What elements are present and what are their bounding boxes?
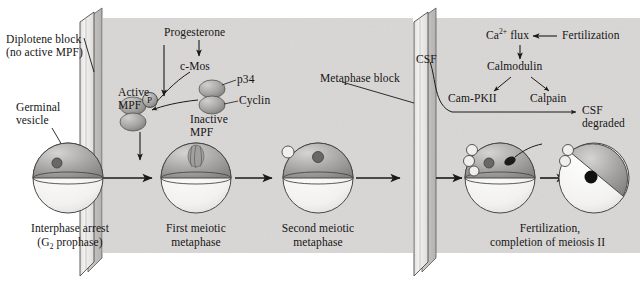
polar-body-1	[282, 146, 294, 158]
p34-subunit	[199, 80, 225, 98]
polar-body-2	[560, 156, 571, 167]
cyclin-subunit	[199, 96, 225, 114]
label-active-mpf-line2: MPF	[118, 99, 141, 112]
zygote-pronucleus	[585, 171, 598, 184]
label-fertilization-input: Fertilization	[562, 29, 620, 42]
stage-fertilization-line2: completion of meiosis II	[455, 236, 640, 249]
label-cam-pkii: Cam-PKII	[448, 92, 497, 105]
polar-body-1	[467, 145, 478, 156]
stage-second-meiotic-metaphase-line1: Second meiotic	[248, 222, 388, 235]
polar-body-3	[469, 166, 479, 176]
oocyte-meiosis-i-spindle	[161, 143, 231, 213]
label-ca-flux: Ca2+ flux	[486, 29, 529, 42]
label-p34: p34	[237, 73, 255, 86]
stage-first-meiotic-metaphase-line1: First meiotic	[126, 222, 266, 235]
label-cyclin: Cyclin	[239, 94, 270, 107]
stage-interphase-arrest-line1: Interphase arrest	[0, 222, 140, 235]
label-c-mos: c-Mos	[180, 60, 210, 73]
metaphase-barrier	[414, 8, 436, 276]
polar-body-2	[464, 156, 475, 167]
polar-body-1	[563, 145, 574, 156]
stage-second-meiotic-metaphase-line2: metaphase	[248, 236, 388, 249]
label-inactive-mpf-line1: Inactive	[190, 113, 228, 126]
oocyte-meiosis-ii	[282, 143, 353, 213]
label-inactive-mpf-line2: MPF	[190, 126, 213, 139]
label-no-active-mpf: (no active MPF)	[6, 46, 83, 59]
background-regions	[103, 18, 640, 253]
stage-fertilization-line1: Fertilization,	[460, 222, 640, 235]
label-diplotene-block: Diplotene block	[6, 33, 81, 46]
germinal-vesicle-nucleus	[52, 158, 62, 168]
label-active-mpf-line1: Active	[118, 86, 149, 99]
label-phosphate: P	[147, 94, 152, 107]
female-pronucleus	[484, 158, 494, 168]
label-germinal-vesicle-line2: vesicle	[16, 114, 49, 127]
label-csf: CSF	[416, 53, 437, 66]
label-calpain: Calpain	[530, 92, 566, 105]
figure-meiotic-maturation: Diplotene block (no active MPF) Germinal…	[0, 0, 640, 285]
label-csf-degraded-line1: CSF	[582, 104, 603, 117]
stage-interphase-arrest-line2: (G2 prophase)	[0, 236, 140, 249]
label-germinal-vesicle-line1: Germinal	[16, 101, 60, 114]
oocyte-germinal-vesicle	[33, 143, 103, 213]
stage-first-meiotic-metaphase-line2: metaphase	[126, 236, 266, 249]
label-csf-degraded-line2: degraded	[582, 117, 625, 130]
label-progesterone: Progesterone	[164, 26, 225, 39]
label-metaphase-block: Metaphase block	[320, 72, 400, 85]
nucleus	[313, 152, 324, 163]
label-calmodulin: Calmodulin	[487, 60, 542, 73]
